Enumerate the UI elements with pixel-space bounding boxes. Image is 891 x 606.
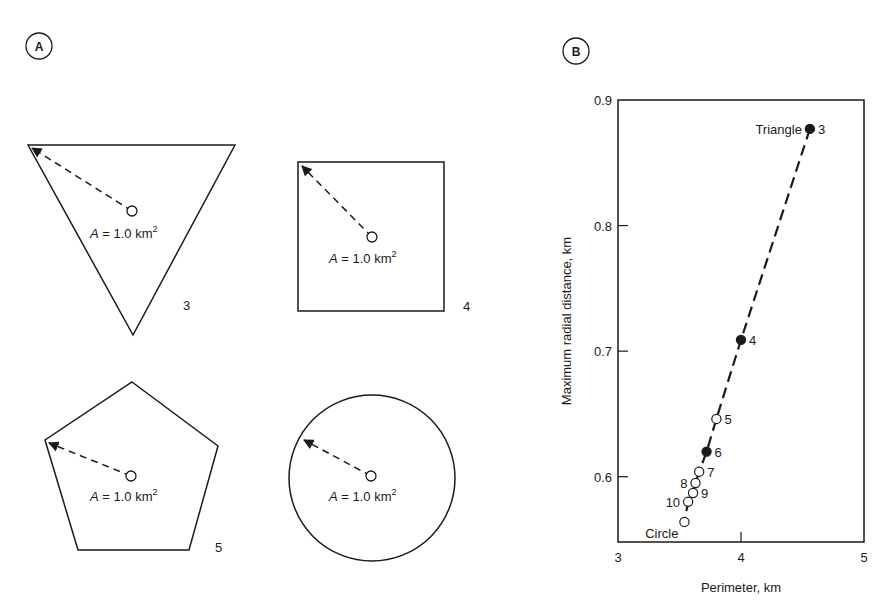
panel-b-label: B xyxy=(563,38,589,64)
radius-arrow xyxy=(304,440,371,476)
plot-frame xyxy=(618,100,864,542)
point-label: 10 xyxy=(666,495,680,510)
point-label: 7 xyxy=(707,465,714,480)
area-label: A = 1.0 km2 xyxy=(328,249,397,266)
circle-shape: A = 1.0 km2 xyxy=(289,395,455,561)
point-label: 3 xyxy=(818,122,825,137)
point-name-label: Triangle xyxy=(755,122,801,137)
data-points: 3Triangle45678910Circle xyxy=(645,122,825,541)
point-label: 8 xyxy=(680,476,687,491)
point-name-label: Circle xyxy=(645,526,678,541)
panel-a-label: A xyxy=(26,33,52,59)
series-line xyxy=(684,129,810,522)
area-label: A = 1.0 km2 xyxy=(328,487,397,504)
y-tick-label: 0.6 xyxy=(594,470,612,485)
area-label: A = 1.0 km2 xyxy=(89,224,158,241)
x-tick-label: 5 xyxy=(860,550,867,565)
radius-arrow xyxy=(49,443,131,476)
data-point xyxy=(691,478,700,487)
data-point xyxy=(702,447,711,456)
point-label: 6 xyxy=(715,445,722,460)
pentagon-shape: A = 1.0 km2 5 xyxy=(45,382,222,555)
y-axis-title: Maximum radial distance, km xyxy=(559,237,574,405)
centroid-marker xyxy=(366,471,376,481)
square-shape: A = 1.0 km2 4 xyxy=(298,162,470,314)
x-axis-title: Perimeter, km xyxy=(701,580,781,595)
data-point xyxy=(712,414,721,423)
svg-text:B: B xyxy=(572,45,581,59)
point-label: 5 xyxy=(724,412,731,427)
data-point xyxy=(688,488,697,497)
chart-b: 0.60.70.80.9 345 3Triangle45678910Circle… xyxy=(559,93,868,595)
data-point xyxy=(684,497,693,506)
data-point xyxy=(680,517,689,526)
point-label: 9 xyxy=(701,486,708,501)
y-tick-label: 0.7 xyxy=(594,344,612,359)
data-point xyxy=(736,335,745,344)
sides-label: 4 xyxy=(463,299,470,314)
sides-label: 3 xyxy=(183,298,190,313)
point-label: 4 xyxy=(749,333,756,348)
centroid-marker xyxy=(127,206,137,216)
svg-text:A: A xyxy=(35,40,44,54)
figure-canvas: A A = 1.0 km2 3 A = 1.0 km2 4 A = 1.0 km… xyxy=(0,0,891,606)
radius-arrow xyxy=(302,166,372,237)
centroid-marker xyxy=(126,471,136,481)
x-tick-label: 4 xyxy=(737,550,744,565)
data-point xyxy=(695,467,704,476)
centroid-marker xyxy=(367,232,377,242)
x-tick-label: 3 xyxy=(614,550,621,565)
area-label: A = 1.0 km2 xyxy=(89,487,158,504)
y-tick-label: 0.8 xyxy=(594,219,612,234)
y-tick-label: 0.9 xyxy=(594,93,612,108)
triangle-shape: A = 1.0 km2 3 xyxy=(28,145,235,335)
y-axis: 0.60.70.80.9 xyxy=(594,93,628,485)
data-point xyxy=(805,124,814,133)
sides-label: 5 xyxy=(215,540,222,555)
